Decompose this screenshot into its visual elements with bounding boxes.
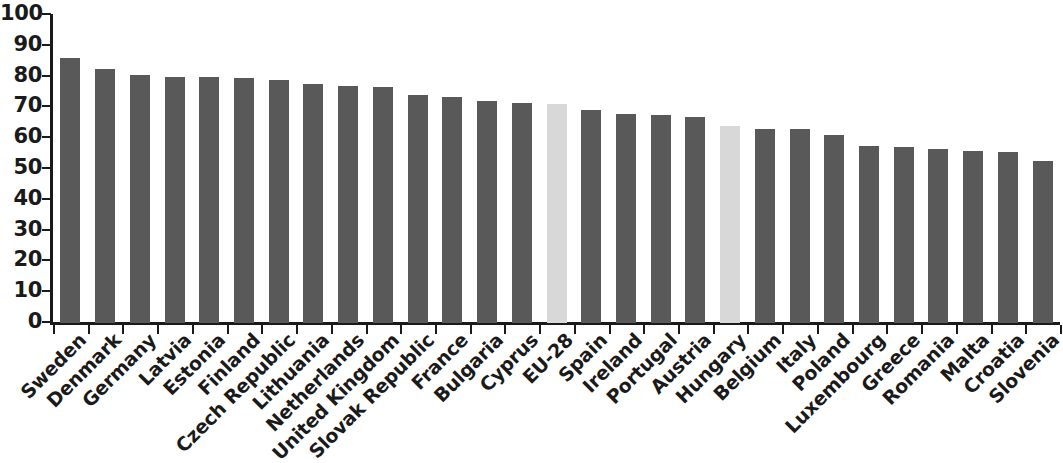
bar-sweden [60,58,80,323]
x-tick-mark [261,325,263,334]
bar-italy [790,129,810,323]
x-tick-mark [53,325,55,334]
y-tick-label: 20 [0,249,42,270]
y-tick-label: 60 [0,126,42,147]
y-tick-mark [42,198,51,200]
y-tick-mark [42,229,51,231]
y-tick-label: 50 [0,157,42,178]
y-tick-mark [42,13,51,15]
bar-greece [894,147,914,323]
bar-poland [824,135,844,323]
x-tick-mark [1025,325,1027,334]
x-tick-mark [852,325,854,334]
y-axis-label-group: 1009080706050403020100 [0,0,46,340]
bar-slovak-republic [408,95,428,323]
y-tick-mark [42,105,51,107]
x-tick-mark [539,325,541,334]
x-tick-mark [921,325,923,334]
bar-hungary [720,126,740,323]
y-tick-label: 80 [0,65,42,86]
bar-portugal [651,115,671,323]
x-tick-mark [956,325,958,334]
bar-spain [581,110,601,323]
x-tick-mark [296,325,298,334]
x-tick-mark [122,325,124,334]
bar-united-kingdom [373,87,393,323]
bar-bulgaria [477,101,497,323]
x-tick-mark [643,325,645,334]
x-tick-mark [88,325,90,334]
bar-eu-28 [547,104,567,323]
y-tick-label: 100 [0,3,42,24]
x-tick-mark [713,325,715,334]
x-axis-label-group: SwedenDenmarkGermanyLatviaEstoniaFinland… [0,330,1063,442]
x-tick-mark [366,325,368,334]
y-tick-mark [42,75,51,77]
y-tick-label: 0 [0,311,42,332]
y-tick-mark [42,290,51,292]
bar-latvia [165,77,185,323]
y-tick-mark [42,44,51,46]
bar-cyprus [512,103,532,323]
x-tick-mark [157,325,159,334]
x-tick-mark [435,325,437,334]
x-tick-mark [470,325,472,334]
x-tick-mark [817,325,819,334]
x-tick-mark [747,325,749,334]
y-tick-mark [42,259,51,261]
bar-belgium [755,129,775,323]
x-tick-mark [331,325,333,334]
x-tick-mark [609,325,611,334]
bar-france [442,97,462,323]
x-tick-mark [1060,325,1062,334]
y-tick-label: 30 [0,219,42,240]
x-tick-mark [991,325,993,334]
x-tick-mark [400,325,402,334]
x-tick-mark [504,325,506,334]
x-tick-mark [574,325,576,334]
bar-austria [685,117,705,323]
bar-ireland [616,114,636,323]
y-tick-label: 90 [0,34,42,55]
y-tick-label: 40 [0,188,42,209]
bar-slovenia [1033,161,1053,323]
bar-malta [963,151,983,323]
plot-area [53,14,1060,323]
bar-romania [928,149,948,323]
x-tick-mark [192,325,194,334]
bar-germany [130,75,150,323]
bar-finland [234,78,254,323]
y-tick-mark [42,321,51,323]
x-tick-mark [227,325,229,334]
bar-czech-republic [269,80,289,323]
x-tick-mark [678,325,680,334]
bar-denmark [95,69,115,323]
bar-estonia [199,77,219,323]
bar-netherlands [338,86,358,323]
y-tick-label: 10 [0,280,42,301]
y-tick-mark [42,167,51,169]
x-tick-mark [782,325,784,334]
bar-croatia [998,152,1018,323]
y-tick-mark [42,136,51,138]
x-tick-mark [886,325,888,334]
bar-lithuania [303,84,323,323]
y-tick-label: 70 [0,95,42,116]
bar-luxembourg [859,146,879,323]
